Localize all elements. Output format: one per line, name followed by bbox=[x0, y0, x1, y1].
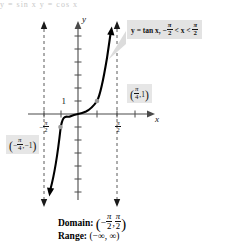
y-axis-label: y bbox=[81, 14, 86, 24]
tangent-curve bbox=[47, 27, 114, 197]
pi-den: 2 bbox=[115, 127, 120, 133]
domain-label: Domain: bbox=[58, 218, 93, 228]
y-axis bbox=[75, 21, 82, 200]
point-label-pi-over-4: (π4,1) bbox=[127, 84, 152, 103]
x-axis-label: x bbox=[154, 114, 159, 124]
callout-relation: < x < bbox=[175, 26, 191, 35]
marker-neg-pi-over-4 bbox=[58, 125, 63, 130]
tangent-function-figure: y = sin x y = cos x bbox=[0, 0, 227, 250]
marker-pi-over-4 bbox=[95, 99, 100, 104]
close-paren: ) bbox=[121, 216, 126, 232]
domain-range-block: Domain: (−π2,π2) Range: (−∞, ∞) bbox=[58, 212, 126, 244]
callout-left-den: 2 bbox=[167, 30, 173, 37]
close-paren: ) bbox=[145, 89, 149, 102]
range-label: Range: bbox=[58, 231, 87, 241]
close-paren: ) bbox=[32, 140, 36, 153]
x-label-neg-pi-over-2: −π2 bbox=[33, 120, 55, 134]
equation-callout: y = tan x, −π2 < x < π2 bbox=[127, 20, 202, 39]
x-axis bbox=[28, 111, 155, 118]
pi-den: 2 bbox=[43, 127, 48, 133]
callout-right-den: 2 bbox=[192, 30, 198, 37]
point-label-neg-pi-over-4: (−π4,−1) bbox=[6, 135, 39, 154]
domain-line: Domain: (−π2,π2) bbox=[58, 212, 126, 230]
y-tick-label-one: 1 bbox=[62, 96, 67, 106]
range-line: Range: (−∞, ∞) bbox=[58, 230, 126, 244]
x-label-pi-over-2: π2 bbox=[107, 120, 129, 134]
range-value: (−∞, ∞) bbox=[89, 231, 119, 241]
callout-prefix: y = tan x, bbox=[131, 26, 161, 35]
